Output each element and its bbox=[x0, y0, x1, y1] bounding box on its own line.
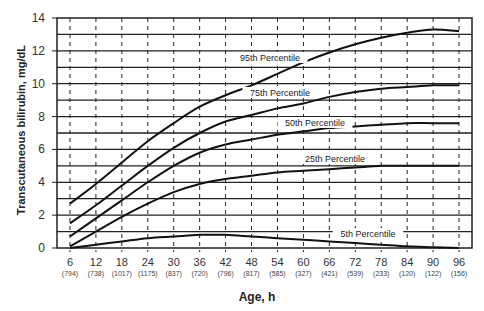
y-tick-label: 10 bbox=[32, 77, 46, 91]
y-tick-label: 6 bbox=[38, 142, 45, 156]
x-tick-sublabel: (720) bbox=[191, 270, 207, 278]
x-tick-label: 84 bbox=[401, 256, 413, 268]
x-tick-label: 90 bbox=[427, 256, 439, 268]
x-tick-label: 12 bbox=[90, 256, 102, 268]
x-tick-sublabel: (1175) bbox=[138, 270, 158, 278]
x-tick-sublabel: (585) bbox=[269, 270, 285, 278]
x-tick-sublabel: (327) bbox=[295, 270, 311, 278]
y-tick-label: 0 bbox=[38, 241, 45, 255]
percentile-curve bbox=[70, 85, 459, 223]
curve-label: 75th Percentile bbox=[250, 88, 310, 98]
x-tick-label: 48 bbox=[245, 256, 257, 268]
x-tick-sublabel: (156) bbox=[451, 270, 467, 278]
y-tick-label: 4 bbox=[38, 175, 45, 189]
x-tick-label: 60 bbox=[297, 256, 309, 268]
x-tick-sublabel: (120) bbox=[399, 270, 415, 278]
x-tick-label: 96 bbox=[453, 256, 465, 268]
x-tick-sublabel: (1017) bbox=[112, 270, 132, 278]
x-tick-sublabel: (122) bbox=[425, 270, 441, 278]
x-tick-label: 66 bbox=[323, 256, 335, 268]
x-tick-label: 36 bbox=[194, 256, 206, 268]
x-tick-sublabel: (738) bbox=[88, 270, 104, 278]
x-axis-label: Age, h bbox=[0, 290, 484, 304]
x-tick-sublabel: (421) bbox=[321, 270, 337, 278]
x-tick-sublabel: (837) bbox=[166, 270, 182, 278]
curve-label: 95th Percentile bbox=[240, 53, 300, 63]
curve-labels: 95th Percentile75th Percentile50th Perce… bbox=[233, 52, 404, 239]
x-tick-label: 42 bbox=[219, 256, 231, 268]
y-axis-label: Transcutaneous bilirubin, mg/dL bbox=[13, 25, 29, 235]
x-tick-label: 24 bbox=[142, 256, 154, 268]
x-tick-label: 18 bbox=[116, 256, 128, 268]
x-tick-label: 54 bbox=[271, 256, 283, 268]
x-tick-label: 30 bbox=[168, 256, 180, 268]
y-tick-label: 14 bbox=[32, 11, 46, 25]
x-tick-sublabel: (233) bbox=[373, 270, 389, 278]
x-tick-sublabel: (817) bbox=[243, 270, 259, 278]
x-tick-sublabel: (796) bbox=[217, 270, 233, 278]
y-tick-label: 8 bbox=[38, 110, 45, 124]
x-tick-sublabel: (794) bbox=[62, 270, 78, 278]
curve-label: 5th Percentile bbox=[340, 229, 395, 239]
x-tick-label: 6 bbox=[67, 256, 73, 268]
curve-label: 50th Percentile bbox=[285, 118, 345, 128]
x-tick-label: 78 bbox=[375, 256, 387, 268]
percentile-chart: 024681012146(794)12(738)18(1017)24(1175)… bbox=[0, 0, 484, 311]
x-tick-label: 72 bbox=[349, 256, 361, 268]
y-tick-label: 12 bbox=[32, 44, 46, 58]
curve-label: 25th Percentile bbox=[305, 154, 365, 164]
x-tick-sublabel: (539) bbox=[347, 270, 363, 278]
y-tick-label: 2 bbox=[38, 208, 45, 222]
